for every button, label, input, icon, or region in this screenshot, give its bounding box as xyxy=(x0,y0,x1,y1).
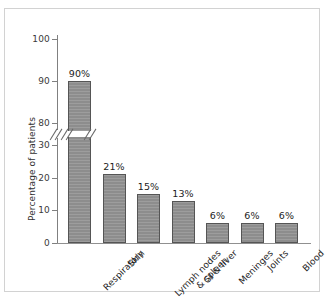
bar xyxy=(206,223,229,243)
y-axis-title: Percentage of patients xyxy=(27,104,37,234)
bar xyxy=(68,81,91,243)
bar-value-label: 6% xyxy=(279,210,294,221)
bar-value-label: 21% xyxy=(103,161,124,172)
x-axis-line xyxy=(57,243,311,244)
bar xyxy=(137,194,160,243)
y-tick-label: 10 xyxy=(38,205,50,215)
y-tick-mark xyxy=(52,123,57,124)
y-tick-label: 80 xyxy=(38,118,50,128)
bar xyxy=(241,223,264,243)
bar-value-label: 90% xyxy=(69,68,90,79)
y-tick-mark xyxy=(52,210,57,211)
bar xyxy=(275,223,298,243)
y-tick-mark xyxy=(52,243,57,244)
y-tick-mark xyxy=(52,81,57,82)
chart-figure: 01020308090100 90%21%15%13%6%6%6% Respir… xyxy=(0,0,328,305)
y-tick-mark xyxy=(52,145,57,146)
x-axis-category-label: Skin xyxy=(126,248,147,269)
x-axis-category-line: Blood xyxy=(300,248,325,273)
y-tick-label: 90 xyxy=(38,76,50,86)
y-tick-label: 0 xyxy=(44,238,50,248)
y-tick-label: 100 xyxy=(32,34,50,44)
bar xyxy=(172,201,195,243)
y-axis-line xyxy=(57,35,58,244)
bar-value-label: 15% xyxy=(138,181,159,192)
x-axis-category-label: Lymph nodes& spleen xyxy=(172,248,229,305)
bar-value-label: 6% xyxy=(244,210,259,221)
bar-value-label: 6% xyxy=(210,210,225,221)
plot-area: 01020308090100 90%21%15%13%6%6%6% Respir… xyxy=(57,35,313,244)
x-axis-category-line: Skin xyxy=(126,248,147,269)
bar xyxy=(103,174,126,243)
y-tick-mark xyxy=(52,39,57,40)
figure-frame: 01020308090100 90%21%15%13%6%6%6% Respir… xyxy=(4,8,320,292)
x-axis-category-label: Blood xyxy=(300,248,325,273)
bar-value-label: 13% xyxy=(172,188,193,199)
y-tick-mark xyxy=(52,178,57,179)
y-tick-label: 20 xyxy=(38,173,50,183)
y-tick-label: 30 xyxy=(38,140,50,150)
